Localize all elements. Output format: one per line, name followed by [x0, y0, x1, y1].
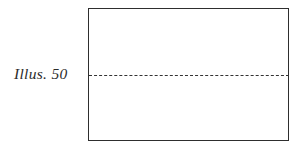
horizontal-dashed-divider-line	[89, 75, 289, 76]
figure-canvas: Illus. 50	[0, 0, 304, 149]
figure-caption: Illus. 50	[14, 64, 80, 84]
